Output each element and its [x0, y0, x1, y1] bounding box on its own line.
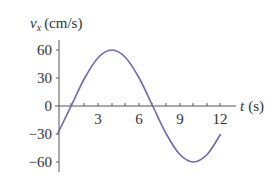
velocity-time-chart: vx(cm/s) 60 30 0 −30 −60 3 6 9 12 t(s): [0, 0, 275, 183]
x-tick-label: 3: [94, 111, 102, 127]
y-tick-label: 30: [37, 70, 52, 86]
x-tick-label: 12: [213, 111, 228, 127]
y-tick-label: −60: [29, 154, 52, 170]
x-tick-label: 6: [135, 111, 143, 127]
y-axis-label: vx(cm/s): [30, 15, 82, 33]
y-tick-label: −30: [29, 126, 52, 142]
x-axis-label: t(s): [240, 98, 264, 115]
y-tick-label: 60: [37, 42, 52, 58]
x-tick-label: 9: [176, 111, 184, 127]
y-tick-label: 0: [45, 98, 53, 114]
